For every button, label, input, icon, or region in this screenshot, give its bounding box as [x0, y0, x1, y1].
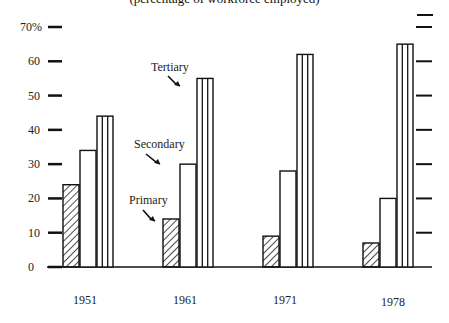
annotation-secondary: Secondary [134, 137, 185, 151]
y-tick-label: 50 [28, 89, 40, 103]
y-tick-label: 70% [20, 20, 42, 34]
bar-primary [63, 185, 79, 267]
y-tick-label: 20 [28, 191, 40, 205]
y-tick-label: 30 [28, 157, 40, 171]
category-labels: 1951196119711978 [73, 293, 405, 309]
bar-tertiary [297, 54, 313, 267]
bar-primary [363, 243, 379, 267]
bar-secondary [80, 150, 96, 267]
bar-tertiary [97, 116, 113, 267]
bar-primary [263, 236, 279, 267]
y-tick-label: 40 [28, 123, 40, 137]
y-tick-label: 10 [28, 226, 40, 240]
x-category-label: 1971 [273, 293, 297, 307]
annotation-tertiary: Tertiary [151, 60, 189, 74]
x-category-label: 1978 [381, 295, 405, 309]
bar-secondary [180, 164, 196, 267]
x-category-label: 1961 [173, 293, 197, 307]
annotation-primary: Primary [129, 193, 168, 207]
bar-chart: 010203040506070% 1951196119711978 Tertia… [0, 0, 449, 323]
bar-tertiary [397, 44, 413, 267]
x-category-label: 1951 [73, 293, 97, 307]
bar-tertiary [197, 78, 213, 267]
bars [63, 44, 413, 267]
bar-primary [163, 219, 179, 267]
bar-secondary [380, 198, 396, 267]
bar-secondary [280, 171, 296, 267]
y-tick-label: 60 [28, 54, 40, 68]
y-tick-label: 0 [28, 260, 34, 274]
